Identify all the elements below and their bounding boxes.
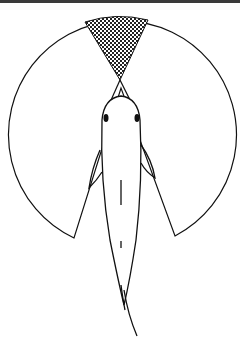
- fish-visual-field-diagram: [0, 0, 240, 340]
- right-eye: [135, 114, 140, 122]
- binocular-zone: [85, 17, 148, 80]
- left-eye: [104, 114, 109, 122]
- fish-body: [89, 96, 155, 336]
